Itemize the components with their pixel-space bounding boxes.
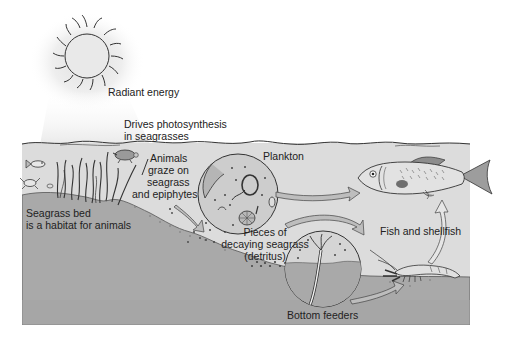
label-detritus-line3: (detritus) [215,250,315,262]
label-plankton: Plankton [263,150,304,162]
label-habitat-line2: is a habitat for animals [26,219,131,231]
label-photosynthesis-line2: in seagrasses [124,130,227,142]
label-fish-shellfish: Fish and shellfish [380,225,461,237]
label-habitat-line1: Seagrass bed [26,207,131,219]
label-grazers-line3: seagrass [132,176,197,188]
label-bottom-feeders: Bottom feeders [287,309,358,321]
label-grazers-line2: graze on [132,164,197,176]
label-grazers-line1: Animals [132,152,197,164]
label-grazers: Animals graze on seagrass and epiphytes [132,152,197,200]
label-radiant-energy: Radiant energy [108,86,179,98]
label-photosynthesis-line1: Drives photosynthesis [124,118,227,130]
label-detritus: Pieces of decaying seagrass (detritus) [215,226,315,262]
label-photosynthesis: Drives photosynthesis in seagrasses [124,118,227,142]
label-detritus-line1: Pieces of [215,226,315,238]
sun-icon [0,0,514,338]
label-habitat: Seagrass bed is a habitat for animals [26,207,131,231]
label-detritus-line2: decaying seagrass [215,238,315,250]
label-grazers-line4: and epiphytes [132,188,197,200]
